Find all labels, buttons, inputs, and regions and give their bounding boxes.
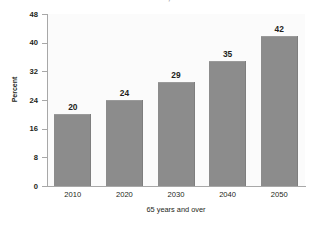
x-axis-tick-label: 2010 [47,190,99,199]
x-axis-tick-label: 2040 [202,190,254,199]
bar [209,61,246,186]
x-axis-tick-label: 2020 [98,190,150,199]
bar-value-label: 20 [51,102,95,112]
x-axis-line [47,186,306,187]
y-axis-tick-mark [42,157,47,158]
bar-value-label: 29 [154,70,198,80]
y-axis-line [47,14,48,187]
y-axis-tick-label: 32 [16,67,38,76]
bar [54,114,91,186]
bar-value-label: 24 [102,88,146,98]
x-axis-tick-label: 2050 [253,190,305,199]
x-axis-tick-label: 2030 [150,190,202,199]
y-axis-tick-mark [42,100,47,101]
bar [158,82,195,186]
y-axis-tick-label: 16 [16,124,38,133]
y-axis-tick-mark [42,129,47,130]
bar [106,100,143,186]
y-axis-tick-label: 24 [16,96,38,105]
y-axis-tick-label: 48 [16,10,38,19]
y-axis-tick-mark [42,14,47,15]
y-axis-tick-mark [42,71,47,72]
y-axis-tick-label: 40 [16,38,38,47]
y-axis-tick-mark [42,186,47,187]
y-axis-tick-mark [42,43,47,44]
x-axis-title: 65 years and over [47,205,305,214]
bar-value-label: 42 [257,24,301,34]
bar-value-label: 35 [206,49,250,59]
chart-title: AND OLDER, 2010-2050 [0,0,332,2]
bar [261,36,298,187]
y-axis-tick-label: 8 [16,153,38,162]
y-axis-tick-label: 0 [16,182,38,191]
